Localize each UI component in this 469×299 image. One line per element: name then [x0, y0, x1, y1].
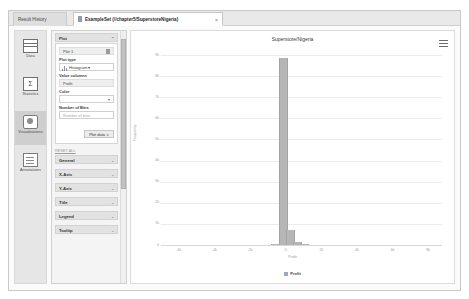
gridline	[161, 182, 442, 183]
x-axis-tick: -2k	[239, 248, 261, 252]
x-axis-tick: 8k	[417, 248, 439, 252]
x-axis-tick: -6k	[168, 248, 190, 252]
chart-legend[interactable]: Profit	[131, 271, 454, 276]
y-axis-label: Frequency	[133, 124, 137, 141]
value-columns-label: Value columns	[59, 73, 114, 78]
section-x-axis-label: X-Axis	[59, 172, 72, 177]
tab-result-history[interactable]: Result History	[13, 12, 67, 26]
x-axis-label: Profit	[131, 255, 454, 259]
gridline	[161, 161, 442, 162]
bins-label: Number of Bins	[59, 105, 114, 110]
sidebar-item-annotations-label: Annotations	[15, 168, 46, 172]
chevron-up-icon[interactable]: ⌃	[111, 36, 114, 42]
y-axis-tick: 0	[139, 243, 159, 247]
chevron-down-icon[interactable]: ⌄	[111, 172, 114, 178]
plot-name-label: Plot 1	[63, 49, 73, 54]
color-label: Color	[59, 89, 114, 94]
x-axis-tick: 4k	[346, 248, 368, 252]
gridline	[161, 203, 442, 204]
y-axis-tick: 6k	[139, 116, 159, 120]
notes-icon	[23, 153, 38, 167]
plot-data-button-label: Plot data	[89, 132, 105, 137]
y-axis-tick: 5k	[139, 137, 159, 141]
plot-area: Superstore/Nigeria Frequency 9k8k7k6k5k4…	[130, 30, 455, 284]
value-columns-value: Profit	[63, 81, 72, 86]
sidebar-item-visualizations[interactable]: Visualizations	[15, 111, 46, 145]
section-plot[interactable]: Plot ⌃	[55, 33, 118, 42]
gridline	[161, 76, 442, 77]
table-icon	[23, 39, 38, 53]
sigma-icon: Σ	[23, 77, 38, 91]
tab-result-history-label: Result History	[18, 17, 47, 22]
tab-exampleset[interactable]: ExampleSet (//chapter5/SuperstoreNigeria…	[73, 12, 223, 26]
legend-label: Profit	[290, 271, 300, 276]
section-legend[interactable]: Legend ⌄	[55, 211, 118, 220]
gridline	[161, 55, 442, 56]
gridline	[161, 118, 442, 119]
sidebar-item-annotations[interactable]: Annotations	[15, 149, 46, 183]
histogram-icon	[62, 66, 67, 71]
plot-type-select[interactable]: Histogram ▾	[59, 63, 114, 71]
x-axis-tick: 6k	[382, 248, 404, 252]
sidebar-item-statistics[interactable]: Σ Statistics	[15, 73, 46, 107]
chart-canvas: Frequency 9k8k7k6k5k4k3k2k1k0 -6k-4k-2k0…	[131, 49, 454, 283]
plot-type-label: Plot type	[59, 57, 114, 62]
plot-name-row[interactable]: Plot 1	[59, 47, 114, 55]
tab-strip: Result History ExampleSet (//chapter5/Su…	[9, 11, 460, 26]
chevron-down-icon[interactable]: ⌄	[111, 214, 114, 220]
section-y-axis-label: Y-Axis	[59, 186, 72, 191]
tab-exampleset-label: ExampleSet (//chapter5/SuperstoreNigeria…	[85, 17, 178, 22]
sidebar-item-statistics-label: Statistics	[15, 92, 46, 96]
color-select[interactable]: ▾	[59, 95, 114, 103]
section-general-label: General	[59, 158, 75, 163]
sidebar-item-data-label: Data	[15, 54, 46, 58]
y-axis-tick: 9k	[139, 53, 159, 57]
chart-title: Superstore/Nigeria	[131, 36, 454, 42]
y-axis-tick: 1k	[139, 221, 159, 225]
plot-settings-panel: Plot ⌃ Plot 1 Plot type Histogram ▾	[51, 30, 127, 284]
section-y-axis[interactable]: Y-Axis ⌄	[55, 183, 118, 192]
histogram-bar[interactable]	[279, 58, 288, 245]
plot-data-button[interactable]: Plot data▸	[84, 130, 114, 138]
x-axis-tick: -4k	[203, 248, 225, 252]
gridline	[161, 224, 442, 225]
section-general[interactable]: General ⌄	[55, 155, 118, 164]
chart-icon	[23, 115, 38, 129]
panel-scrollbar[interactable]	[120, 31, 126, 283]
plot-config-box: Plot 1 Plot type Histogram ▾ Value colum…	[55, 43, 118, 144]
section-x-axis[interactable]: X-Axis ⌄	[55, 169, 118, 178]
reset-all-link[interactable]: RESET ALL	[55, 148, 118, 153]
view-rail: Data Σ Statistics Visualizations Annotat…	[14, 30, 47, 284]
sidebar-item-visualizations-label: Visualizations	[15, 130, 46, 134]
y-axis-tick: 8k	[139, 74, 159, 78]
trash-icon[interactable]	[106, 49, 110, 54]
section-legend-label: Legend	[59, 214, 74, 219]
x-axis-tick: 0	[275, 248, 297, 252]
y-axis-tick: 2k	[139, 200, 159, 204]
close-icon[interactable]: ×	[215, 17, 218, 23]
chevron-down-icon[interactable]: ⌄	[111, 186, 114, 192]
section-title-label: Title	[59, 200, 68, 205]
chevron-down-icon[interactable]: ⌄	[111, 200, 114, 206]
bins-input[interactable]: Number of bins	[59, 111, 114, 119]
y-axis-tick: 7k	[139, 95, 159, 99]
x-axis-line	[161, 245, 442, 246]
section-tooltip[interactable]: Tooltip ⌄	[55, 225, 118, 234]
panel-scrollbar-thumb[interactable]	[121, 39, 126, 189]
gridline	[161, 139, 442, 140]
chevron-down-icon[interactable]: ⌄	[111, 228, 114, 234]
chevron-down-icon[interactable]: ⌄	[111, 158, 114, 164]
section-title[interactable]: Title ⌄	[55, 197, 118, 206]
value-columns-item[interactable]: Profit	[59, 79, 114, 87]
chevron-down-icon[interactable]: ▾	[108, 97, 110, 103]
plot-type-value: Histogram	[69, 65, 87, 70]
sidebar-item-data[interactable]: Data	[15, 35, 46, 69]
results-window: Result History ExampleSet (//chapter5/Su…	[8, 10, 461, 291]
x-axis-tick: 2k	[310, 248, 332, 252]
chevron-down-icon[interactable]: ▾	[88, 65, 90, 70]
results-body: Data Σ Statistics Visualizations Annotat…	[9, 26, 460, 290]
hamburger-icon[interactable]	[439, 40, 448, 47]
y-axis-tick: 4k	[139, 158, 159, 162]
section-tooltip-label: Tooltip	[59, 228, 73, 233]
gridline	[161, 97, 442, 98]
